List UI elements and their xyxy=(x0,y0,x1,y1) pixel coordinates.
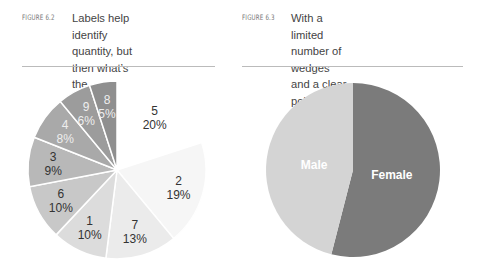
wedge-label: Female xyxy=(371,168,413,182)
pie-chart-gender: FemaleMale xyxy=(0,0,484,271)
wedge-label: Male xyxy=(301,158,328,172)
